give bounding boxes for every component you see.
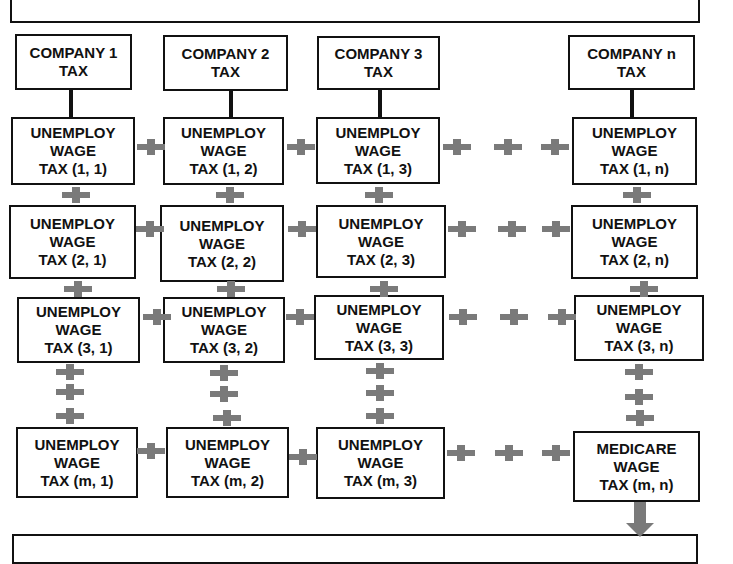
cell-3-3: UNEMPLOY WAGE TAX (3, 3) bbox=[314, 295, 444, 360]
cell-line: UNEMPLOY bbox=[30, 124, 115, 142]
cell-line: UNEMPLOY bbox=[179, 217, 264, 235]
cell-line: TAX (2, 2) bbox=[188, 253, 256, 271]
plus-icon bbox=[630, 281, 656, 297]
cell-1-n: UNEMPLOY WAGE TAX (1, n) bbox=[572, 117, 697, 185]
plus-icon bbox=[64, 281, 90, 297]
company-label-tax: TAX bbox=[617, 63, 646, 81]
plus-icon bbox=[449, 309, 477, 325]
cell-2-2: UNEMPLOY WAGE TAX (2, 2) bbox=[160, 205, 284, 282]
cell-line: TAX (3, 1) bbox=[44, 339, 112, 357]
plus-icon bbox=[137, 139, 165, 155]
cell-line: UNEMPLOY bbox=[592, 215, 677, 233]
plus-icon bbox=[213, 410, 239, 426]
cell-line: TAX (m, n) bbox=[600, 476, 674, 494]
cell-line: WAGE bbox=[612, 233, 658, 251]
cell-1-3: UNEMPLOY WAGE TAX (1, 3) bbox=[316, 117, 440, 184]
cell-2-1: UNEMPLOY WAGE TAX (2, 1) bbox=[9, 205, 136, 279]
plus-icon bbox=[548, 309, 576, 325]
plus-icon bbox=[625, 364, 651, 380]
plus-icon bbox=[56, 384, 82, 400]
cell-line: TAX (3, 2) bbox=[190, 339, 258, 357]
company-label: COMPANY 1 bbox=[30, 44, 118, 62]
plus-icon bbox=[289, 449, 317, 465]
cell-line: UNEMPLOY bbox=[185, 436, 270, 454]
plus-icon bbox=[495, 445, 523, 461]
cell-2-3: UNEMPLOY WAGE TAX (2, 3) bbox=[316, 205, 446, 278]
connector-line bbox=[229, 91, 233, 117]
cell-line: TAX (1, n) bbox=[600, 160, 669, 178]
cell-line: WAGE bbox=[612, 142, 658, 160]
company-label-tax: TAX bbox=[59, 62, 88, 80]
cell-line: MEDICARE bbox=[596, 440, 676, 458]
plus-icon bbox=[542, 445, 570, 461]
cell-m-2: UNEMPLOY WAGE TAX (m, 2) bbox=[166, 427, 289, 498]
cell-3-n: UNEMPLOY WAGE TAX (3, n) bbox=[574, 295, 704, 361]
plus-icon bbox=[286, 309, 314, 325]
company-label-tax: TAX bbox=[211, 63, 240, 81]
plus-icon bbox=[623, 187, 649, 203]
cell-line: WAGE bbox=[201, 142, 247, 160]
cell-line: UNEMPLOY bbox=[336, 301, 421, 319]
cell-1-1: UNEMPLOY WAGE TAX (1, 1) bbox=[11, 117, 135, 185]
company-label: COMPANY n bbox=[587, 45, 676, 63]
cell-2-n: UNEMPLOY WAGE TAX (2, n) bbox=[571, 205, 698, 279]
cell-line: WAGE bbox=[50, 142, 96, 160]
plus-icon bbox=[217, 281, 243, 297]
plus-icon bbox=[210, 365, 236, 381]
plus-icon bbox=[443, 139, 471, 155]
plus-icon bbox=[143, 309, 171, 325]
plus-icon bbox=[447, 445, 475, 461]
cell-3-1: UNEMPLOY WAGE TAX (3, 1) bbox=[17, 297, 140, 363]
cell-line: WAGE bbox=[616, 319, 662, 337]
plus-icon bbox=[626, 410, 652, 426]
plus-icon bbox=[136, 221, 164, 237]
plus-icon bbox=[448, 221, 476, 237]
plus-icon bbox=[216, 187, 242, 203]
cell-line: UNEMPLOY bbox=[181, 303, 266, 321]
cell-line: WAGE bbox=[356, 319, 402, 337]
plus-icon bbox=[287, 139, 315, 155]
arrow-down-icon bbox=[625, 502, 655, 538]
cell-line: TAX (m, 2) bbox=[191, 472, 264, 490]
cell-line: TAX (1, 3) bbox=[344, 160, 412, 178]
plus-icon bbox=[541, 139, 569, 155]
cell-line: WAGE bbox=[50, 233, 96, 251]
plus-icon bbox=[137, 443, 165, 459]
plus-icon bbox=[625, 389, 651, 405]
cell-line: WAGE bbox=[355, 142, 401, 160]
plus-icon bbox=[288, 221, 316, 237]
cell-line: TAX (3, 3) bbox=[345, 337, 413, 355]
cell-1-2: UNEMPLOY WAGE TAX (1, 2) bbox=[163, 117, 284, 185]
cell-m-n: MEDICARE WAGE TAX (m, n) bbox=[573, 431, 700, 502]
cell-line: TAX (m, 1) bbox=[40, 472, 113, 490]
cell-line: WAGE bbox=[358, 233, 404, 251]
plus-icon bbox=[366, 363, 392, 379]
plus-icon bbox=[498, 221, 526, 237]
plus-icon bbox=[542, 221, 570, 237]
cell-line: UNEMPLOY bbox=[592, 124, 677, 142]
connector-line bbox=[69, 90, 73, 117]
cell-line: WAGE bbox=[205, 454, 251, 472]
cell-line: UNEMPLOY bbox=[596, 301, 681, 319]
cell-line: WAGE bbox=[54, 454, 100, 472]
cell-line: WAGE bbox=[614, 458, 660, 476]
top-frame bbox=[10, 0, 700, 23]
company-1-box: COMPANY 1 TAX bbox=[15, 34, 132, 90]
cell-line: UNEMPLOY bbox=[36, 303, 121, 321]
company-label: COMPANY 3 bbox=[335, 45, 423, 63]
plus-icon bbox=[365, 187, 391, 203]
company-3-box: COMPANY 3 TAX bbox=[317, 36, 440, 90]
plus-icon bbox=[56, 408, 82, 424]
cell-line: TAX (2, 1) bbox=[38, 251, 106, 269]
cell-line: UNEMPLOY bbox=[181, 124, 266, 142]
plus-icon bbox=[366, 385, 392, 401]
cell-line: WAGE bbox=[199, 235, 245, 253]
cell-line: WAGE bbox=[358, 454, 404, 472]
connector-line bbox=[378, 90, 382, 117]
cell-line: TAX (m, 3) bbox=[344, 472, 417, 490]
cell-line: TAX (1, 1) bbox=[39, 160, 107, 178]
company-2-box: COMPANY 2 TAX bbox=[163, 35, 288, 91]
plus-icon bbox=[56, 364, 82, 380]
cell-line: TAX (2, 3) bbox=[347, 251, 415, 269]
cell-line: UNEMPLOY bbox=[30, 215, 115, 233]
